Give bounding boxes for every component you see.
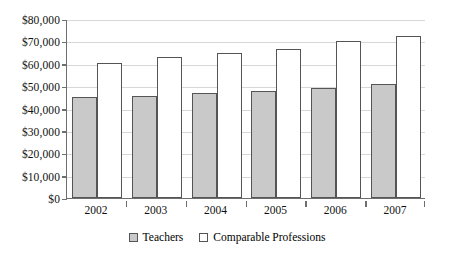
x-axis-tick-label: 2004 (204, 204, 227, 216)
x-axis-tick-label: 2005 (264, 204, 287, 216)
x-axis-tick-label: 2002 (84, 204, 107, 216)
bar-group (132, 20, 182, 198)
y-axis-tick-label: $20,000 (22, 148, 60, 160)
x-axis-divider (424, 201, 426, 207)
bar-group (311, 20, 361, 198)
legend-swatch-icon (129, 233, 138, 242)
y-axis-tick-label: $0 (48, 193, 60, 205)
y-axis-tick (62, 131, 67, 133)
y-axis-tick-label: $60,000 (22, 59, 60, 71)
bar (336, 41, 361, 198)
x-axis-divider (365, 201, 367, 207)
y-axis-tick (62, 176, 67, 178)
legend-entry: Comparable Professions (199, 231, 325, 243)
y-axis-tick (62, 109, 67, 111)
bar-group (371, 20, 421, 198)
legend-swatch-icon (199, 233, 208, 242)
x-axis-divider (305, 201, 307, 207)
x-axis-divider (186, 201, 188, 207)
x-axis-divider (246, 201, 248, 207)
y-axis-tick (62, 64, 67, 66)
y-axis-tick (62, 154, 67, 156)
x-axis-divider (126, 201, 128, 207)
x-axis-tick-label: 2007 (384, 204, 407, 216)
bar (396, 36, 421, 198)
y-axis-tick-labels: $80,000$70,000$60,000$50,000$40,000$30,0… (0, 20, 60, 199)
bar-group (251, 20, 301, 198)
y-axis-tick (62, 42, 67, 44)
y-axis-tick (62, 87, 67, 89)
y-axis-tick (62, 199, 67, 201)
bar (276, 49, 301, 198)
bar (311, 88, 336, 198)
y-axis-tick-label: $80,000 (22, 14, 60, 26)
chart-legend: TeachersComparable Professions (0, 231, 454, 243)
x-axis-tick-label: 2003 (144, 204, 167, 216)
x-axis-tick-label: 2006 (324, 204, 347, 216)
legend-label: Teachers (143, 231, 184, 243)
x-axis-tick-labels: 200220032004200520062007 (66, 201, 425, 221)
bar (251, 91, 276, 198)
bar-group (192, 20, 242, 198)
y-axis-tick-label: $70,000 (22, 36, 60, 48)
bar-group (72, 20, 122, 198)
y-axis-tick-label: $50,000 (22, 81, 60, 93)
bar (97, 63, 122, 198)
bar (371, 84, 396, 198)
grouped-bar-chart: $80,000$70,000$60,000$50,000$40,000$30,0… (0, 0, 454, 257)
bar (157, 57, 182, 198)
plot-area (66, 20, 425, 199)
y-axis-tick-label: $30,000 (22, 126, 60, 138)
y-axis-tick-label: $10,000 (22, 171, 60, 183)
y-axis-tick (62, 20, 67, 22)
y-axis-tick-label: $40,000 (22, 104, 60, 116)
legend-label: Comparable Professions (213, 231, 325, 243)
bar (217, 53, 242, 198)
bar (132, 96, 157, 198)
bar (72, 97, 97, 198)
legend-entry: Teachers (129, 231, 184, 243)
bar (192, 93, 217, 198)
